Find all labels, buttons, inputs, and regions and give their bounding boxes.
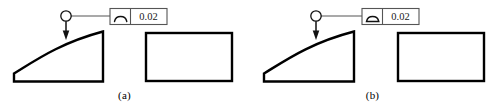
tolerance-value: 0.02 [139,11,157,22]
circle-leader-origin [61,11,71,21]
figure-panel-b: 0.02 (b) [248,0,497,112]
leader-arrowhead [63,31,70,41]
technical-drawing-figure: 0.02 (a) 0.02 (b) [0,0,497,112]
panel-a-caption: (a) [0,90,249,101]
profiled-part-outline [264,32,354,82]
circle-leader-origin [311,11,321,21]
plain-rectangle-outline [398,33,484,81]
panel-b-caption: (b) [248,90,497,101]
leader-arrowhead [313,31,320,41]
figure-panel-a: 0.02 (a) [0,0,249,112]
profiled-part-outline [14,32,103,82]
plain-rectangle-outline [146,33,232,81]
tolerance-value: 0.02 [391,11,409,22]
